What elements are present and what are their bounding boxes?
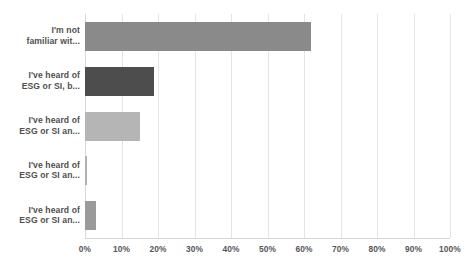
x-tick-label: 90%	[405, 243, 422, 255]
plot-area	[85, 14, 450, 238]
bar[interactable]	[85, 112, 140, 141]
category-label: I've heard of ESG or SI an...	[0, 115, 80, 136]
x-axis-tick-labels: 0%10%20%30%40%50%60%70%80%90%100%	[0, 243, 470, 259]
x-tick-label: 30%	[186, 243, 203, 255]
x-tick-label: 20%	[149, 243, 166, 255]
category-label: I'm not familiar wit...	[0, 25, 80, 46]
x-tick-label: 40%	[222, 243, 239, 255]
bar[interactable]	[85, 156, 87, 185]
bar[interactable]	[85, 22, 311, 51]
gridline-90	[414, 14, 415, 238]
bar-chart: I'm not familiar wit...I've heard of ESG…	[0, 0, 470, 272]
bar[interactable]	[85, 67, 154, 96]
x-tick-label: 10%	[113, 243, 130, 255]
x-tick-label: 70%	[332, 243, 349, 255]
x-tick-label: 0%	[79, 243, 91, 255]
x-axis-line	[85, 238, 450, 239]
gridline-70	[341, 14, 342, 238]
gridline-100	[450, 14, 451, 238]
x-tick-label: 80%	[368, 243, 385, 255]
gridline-80	[377, 14, 378, 238]
category-label: I've heard of ESG or SI an...	[0, 160, 80, 181]
bar[interactable]	[85, 201, 96, 230]
category-axis-labels: I'm not familiar wit...I've heard of ESG…	[0, 14, 80, 238]
category-label: I've heard of ESG or SI an...	[0, 205, 80, 226]
category-label: I've heard of ESG or SI, b...	[0, 70, 80, 91]
x-tick-label: 50%	[259, 243, 276, 255]
x-tick-label: 60%	[295, 243, 312, 255]
x-tick-label: 100%	[439, 243, 461, 255]
